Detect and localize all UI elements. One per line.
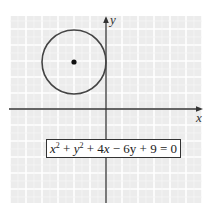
equation-part: − 6y + 9 = 0: [110, 141, 178, 156]
equation-label: x2 + y2 + 4x − 6y + 9 = 0: [46, 139, 181, 158]
x-axis-label: x: [195, 110, 202, 125]
equation-part: + 4: [83, 141, 103, 156]
y-axis-label: y: [108, 12, 116, 27]
equation-part: +: [60, 141, 74, 156]
circle-center-point: [71, 59, 76, 64]
coordinate-plane: x y: [0, 0, 210, 216]
